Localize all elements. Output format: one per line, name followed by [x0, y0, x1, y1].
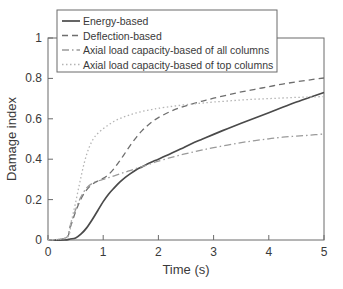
x-tick-label: 5: [321, 245, 328, 259]
legend-label-0: Energy-based: [83, 15, 149, 27]
legend-label-1: Deflection-based: [83, 30, 162, 42]
x-tick-label: 2: [155, 245, 162, 259]
y-tick-label: 0.6: [25, 112, 42, 126]
x-tick-label: 1: [100, 245, 107, 259]
y-tick-label: 1: [35, 31, 42, 45]
x-tick-label: 3: [210, 245, 217, 259]
y-tick-label: 0.4: [25, 152, 42, 166]
x-tick-label: 4: [265, 245, 272, 259]
x-tick-label: 0: [45, 245, 52, 259]
chart-canvas: 01234500.20.40.60.81Time (s)Damage index…: [0, 0, 343, 289]
y-tick-label: 0: [35, 233, 42, 247]
y-tick-label: 0.2: [25, 193, 42, 207]
legend-label-2: Axial load capacity-based of all columns: [83, 44, 269, 56]
series-line-3: [48, 97, 324, 240]
series-line-1: [48, 78, 324, 240]
y-axis-label: Damage index: [4, 97, 19, 181]
damage-index-chart: 01234500.20.40.60.81Time (s)Damage index…: [0, 0, 343, 289]
series-line-0: [48, 93, 324, 241]
y-tick-label: 0.8: [25, 71, 42, 85]
legend-label-3: Axial load capacity-based of top columns: [83, 59, 273, 71]
x-axis-label: Time (s): [162, 262, 209, 277]
